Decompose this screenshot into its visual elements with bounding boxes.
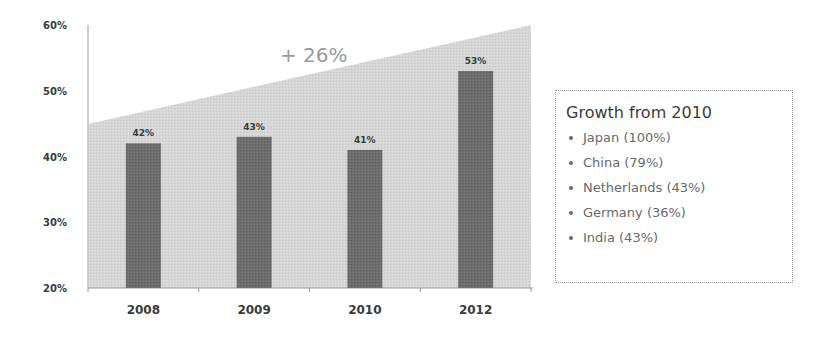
bar-2010 (347, 150, 382, 288)
bullet-icon (569, 161, 573, 165)
bullet-icon (569, 186, 573, 190)
x-tick-label: 2012 (459, 303, 492, 317)
legend-box: Growth from 2010 Japan (100%) China (79%… (555, 90, 793, 283)
legend-list: Japan (100%) China (79%) Netherlands (43… (566, 125, 792, 250)
legend-item-label: India (43%) (583, 225, 658, 250)
data-label: 43% (243, 122, 265, 132)
bar-2012 (458, 71, 493, 288)
bullet-icon (569, 136, 573, 140)
y-tick-label: 50% (43, 86, 67, 97)
y-tick-label: 20% (43, 283, 67, 294)
y-tick-label: 40% (43, 152, 67, 163)
y-tick-label: 30% (43, 217, 67, 228)
bar-2008 (126, 143, 161, 288)
growth-annotation: + 26% (280, 43, 348, 67)
legend-item: Japan (100%) (566, 125, 792, 150)
bullet-icon (569, 211, 573, 215)
legend-item: Netherlands (43%) (566, 175, 792, 200)
legend-item-label: Germany (36%) (583, 200, 686, 225)
legend-item-label: China (79%) (583, 150, 663, 175)
data-label: 41% (354, 135, 376, 145)
bullet-icon (569, 236, 573, 240)
legend-item-label: Japan (100%) (583, 125, 671, 150)
data-label: 53% (465, 56, 487, 66)
y-tick-label: 60% (43, 20, 67, 31)
x-tick-label: 2008 (127, 303, 160, 317)
bar-2009 (237, 137, 272, 288)
legend-item-label: Netherlands (43%) (583, 175, 705, 200)
x-tick-label: 2009 (237, 303, 270, 317)
legend-title: Growth from 2010 (566, 103, 792, 123)
legend-item: India (43%) (566, 225, 792, 250)
data-label: 42% (133, 128, 155, 138)
legend-item: China (79%) (566, 150, 792, 175)
x-tick-label: 2010 (348, 303, 381, 317)
legend-item: Germany (36%) (566, 200, 792, 225)
